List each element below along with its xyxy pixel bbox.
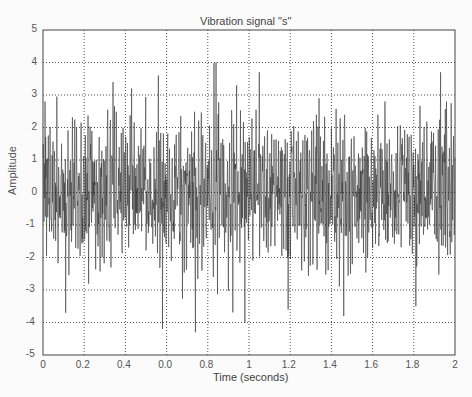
x-tick-label: 1.8 — [405, 359, 419, 370]
y-tick-label: -1 — [26, 218, 35, 229]
y-tick-label: -3 — [26, 283, 35, 294]
y-tick-label: 3 — [31, 88, 37, 99]
x-tick-label: 1.4 — [323, 359, 337, 370]
x-axis-label: Time (seconds) — [213, 371, 288, 383]
y-tick-label: 0 — [31, 186, 37, 197]
y-tick-label: 5 — [31, 23, 37, 34]
vibration-chart — [0, 0, 472, 397]
x-tick-label: 0.4 — [117, 359, 131, 370]
x-tick-label: 1 — [246, 359, 252, 370]
y-tick-label: -4 — [26, 316, 35, 327]
x-tick-label: 0 — [40, 359, 46, 370]
x-tick-label: 0.8 — [199, 359, 213, 370]
y-tick-label: -2 — [26, 251, 35, 262]
y-tick-label: -5 — [26, 348, 35, 359]
y-tick-label: 4 — [31, 56, 37, 67]
x-tick-label: 1.2 — [282, 359, 296, 370]
x-tick-label: 0.2 — [76, 359, 90, 370]
y-tick-label: 1 — [31, 153, 37, 164]
y-axis-label: Amplitude — [6, 146, 18, 195]
x-tick-label: 1.6 — [364, 359, 378, 370]
y-tick-label: 2 — [31, 121, 37, 132]
x-tick-label: 2 — [452, 359, 458, 370]
chart-title: Vibration signal "s" — [200, 15, 291, 27]
x-tick-label: 0.0 — [158, 359, 172, 370]
